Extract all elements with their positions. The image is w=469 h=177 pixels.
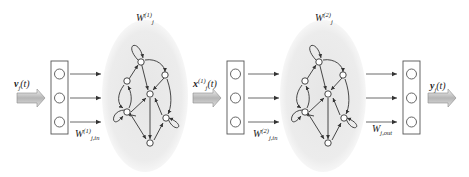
input-signal-arrow — [17, 89, 45, 107]
input-layer-1 — [51, 61, 68, 134]
intermediate-signal-arrow — [193, 89, 221, 107]
input-weights-2-label: W(2)j,in — [253, 129, 277, 139]
intermediate-signal-label: x(1)j(t) — [193, 79, 217, 89]
input-weights-2-arrows — [248, 74, 279, 122]
reservoir-1-label: W(1)j — [136, 13, 154, 23]
reservoir-2-label: W(2)j — [315, 13, 333, 23]
input-weights-1-label: W(1)j,in — [75, 129, 99, 139]
diagram-canvas — [0, 0, 469, 177]
reservoir-2 — [280, 20, 366, 172]
input-weights-1-arrows — [70, 74, 101, 122]
output-signal-label: yj(t) — [430, 81, 446, 91]
input-signal-label: vj(t) — [14, 79, 30, 89]
reservoir-1 — [102, 20, 188, 172]
input-layer-2 — [227, 61, 244, 134]
output-weights-label: Wj,out — [372, 124, 392, 134]
output-layer — [403, 61, 420, 134]
output-weights-arrows — [366, 74, 397, 122]
output-signal-arrow — [428, 89, 456, 107]
